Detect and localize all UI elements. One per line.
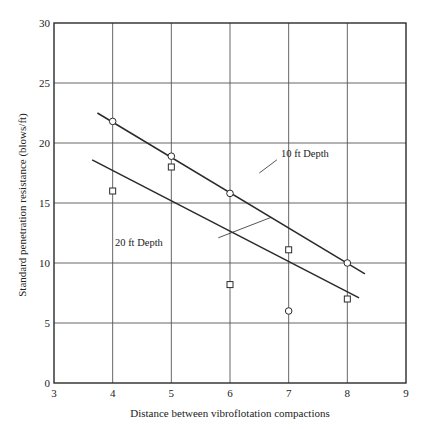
x-tick-label: 7: [286, 387, 292, 399]
y-tick-label: 10: [39, 257, 51, 269]
x-tick-label: 5: [169, 387, 175, 399]
x-tick-label: 6: [227, 387, 233, 399]
circle-marker: [109, 118, 116, 125]
circle-marker: [168, 153, 175, 160]
x-axis-title: Distance between vibroflotation compacti…: [130, 407, 329, 419]
circle-marker: [227, 190, 234, 197]
x-tick-label: 8: [345, 387, 351, 399]
circle-marker: [344, 260, 351, 267]
square-marker: [286, 247, 292, 253]
x-tick-label: 3: [51, 387, 57, 399]
grid-lines: [54, 23, 406, 383]
square-marker: [227, 282, 233, 288]
x-axis-ticks: 3456789: [51, 387, 409, 399]
y-tick-label: 15: [39, 197, 51, 209]
y-tick-label: 30: [39, 17, 51, 29]
annotation-leader-line: [218, 217, 271, 237]
y-tick-label: 5: [45, 317, 51, 329]
y-axis-title: Standard penetration resistance (blows/f…: [16, 113, 29, 297]
y-axis-ticks: 051015202530: [39, 17, 51, 389]
fit-line: [92, 160, 359, 298]
fit-lines: [92, 113, 365, 298]
x-tick-label: 9: [403, 387, 409, 399]
chart: 3456789 051015202530 10 ft Depth20 ft De…: [0, 0, 427, 429]
y-tick-label: 20: [39, 137, 51, 149]
y-tick-label: 0: [45, 377, 51, 389]
y-tick-label: 25: [39, 77, 51, 89]
annotation-label: 20 ft Depth: [115, 237, 164, 248]
scatter-plot: 3456789 051015202530 10 ft Depth20 ft De…: [0, 0, 427, 429]
annotation-label: 10 ft Depth: [281, 148, 330, 159]
x-tick-label: 4: [110, 387, 116, 399]
square-marker: [344, 296, 350, 302]
square-marker: [110, 188, 116, 194]
annotation-leader-line: [259, 160, 277, 173]
square-marker: [168, 164, 174, 170]
circle-marker: [285, 308, 292, 315]
